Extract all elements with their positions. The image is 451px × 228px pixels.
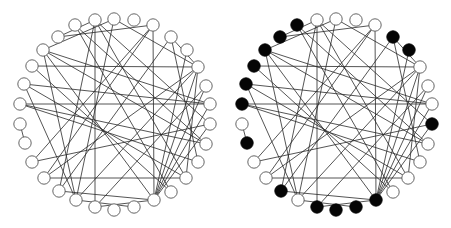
marked-node — [426, 118, 438, 130]
graph-node — [148, 194, 160, 206]
graph-node — [70, 194, 82, 206]
graph-node — [236, 118, 248, 130]
graph-edge — [59, 20, 95, 191]
graph-edge — [32, 66, 198, 67]
graph-node — [14, 118, 26, 130]
graph-edge — [266, 25, 375, 178]
graph-node — [422, 80, 434, 92]
marked-node — [370, 194, 382, 206]
graph-node — [387, 186, 399, 198]
marked-node — [311, 201, 323, 213]
graph-node — [128, 201, 140, 213]
graph-node — [165, 31, 177, 43]
graph-node — [200, 138, 212, 150]
graph-comparison-figure — [0, 0, 451, 228]
graph-node — [18, 78, 30, 90]
right-graph — [236, 13, 438, 216]
graph-node — [292, 194, 304, 206]
graph-node — [426, 98, 438, 110]
graph-node — [89, 201, 101, 213]
marked-node — [274, 31, 286, 43]
graph-node — [38, 172, 50, 184]
graph-node — [165, 186, 177, 198]
graph-edge — [254, 124, 432, 162]
marked-node — [403, 44, 415, 56]
graph-edge — [154, 86, 206, 200]
graph-edge — [246, 84, 298, 200]
graph-edge — [44, 25, 153, 178]
graph-node — [422, 138, 434, 150]
graph-node — [53, 185, 65, 197]
marked-node — [241, 137, 253, 149]
marked-node — [330, 204, 342, 216]
left-graph — [14, 13, 216, 216]
graph-node — [204, 118, 216, 130]
marked-node — [248, 60, 260, 72]
marked-node — [291, 19, 303, 31]
graph-node — [260, 172, 272, 184]
marked-node — [387, 31, 399, 43]
graph-node — [147, 19, 159, 31]
graph-node — [204, 98, 216, 110]
graph-edge — [297, 25, 393, 192]
graph-node — [192, 61, 204, 73]
graph-edge — [375, 25, 376, 200]
graph-edge — [24, 84, 76, 200]
graph-node — [26, 156, 38, 168]
graph-node — [181, 44, 193, 56]
marked-node — [240, 78, 252, 90]
graph-node — [37, 44, 49, 56]
graph-node — [69, 19, 81, 31]
graph-edge — [254, 66, 420, 67]
graph-edge — [75, 25, 171, 192]
graph-node — [26, 60, 38, 72]
graph-node — [19, 137, 31, 149]
graph-node — [248, 156, 260, 168]
graph-edge — [153, 25, 154, 200]
marked-node — [275, 185, 287, 197]
graph-node — [192, 156, 204, 168]
graph-node — [108, 204, 120, 216]
graph-node — [414, 61, 426, 73]
graph-node — [180, 172, 192, 184]
graph-edge — [376, 86, 428, 200]
graph-node — [14, 98, 26, 110]
graph-node — [414, 156, 426, 168]
graph-node — [402, 172, 414, 184]
graph-edge — [281, 20, 317, 191]
graph-node — [128, 14, 140, 26]
graph-node — [89, 14, 101, 26]
graph-node — [350, 14, 362, 26]
marked-node — [350, 201, 362, 213]
graph-node — [311, 14, 323, 26]
graph-node — [52, 31, 64, 43]
graph-node — [108, 13, 120, 25]
graph-node — [200, 80, 212, 92]
graph-node — [369, 19, 381, 31]
graph-node — [330, 13, 342, 25]
marked-node — [259, 44, 271, 56]
marked-node — [236, 98, 248, 110]
graph-edge — [32, 124, 210, 162]
